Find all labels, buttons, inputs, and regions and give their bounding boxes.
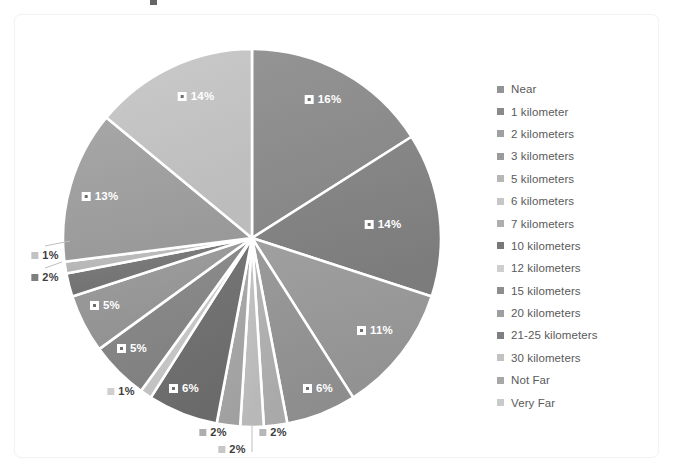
data-label-value: 2% (270, 426, 286, 438)
data-label-marker-icon (259, 429, 266, 436)
pie-data-label: 6% (303, 382, 333, 394)
pie-data-label: 1% (31, 249, 58, 261)
legend-item[interactable]: Not Far (497, 369, 662, 391)
legend-item-label: 6 kilometers (511, 195, 574, 207)
pie-data-label: 1% (107, 385, 134, 397)
legend-item-label: 7 kilometers (511, 218, 574, 230)
pie-data-label: 16% (305, 93, 342, 105)
chart-legend: Near1 kilometer2 kilometers3 kilometers5… (497, 78, 662, 414)
legend-item[interactable]: Very Far (497, 391, 662, 413)
legend-swatch-icon (497, 399, 504, 406)
legend-item[interactable]: 12 kilometers (497, 257, 662, 279)
legend-item-label: Not Far (511, 374, 550, 386)
legend-item[interactable]: 20 kilometers (497, 302, 662, 324)
legend-swatch-icon (497, 354, 504, 361)
legend-item-label: 10 kilometers (511, 240, 581, 252)
pie-data-label: 2% (218, 443, 245, 455)
data-label-value: 2% (210, 426, 226, 438)
legend-item[interactable]: 15 kilometers (497, 280, 662, 302)
legend-item[interactable]: 2 kilometers (497, 123, 662, 145)
data-label-value: 5% (130, 342, 147, 354)
data-label-marker-icon (82, 192, 91, 201)
data-label-marker-icon (90, 301, 99, 310)
legend-item-label: 5 kilometers (511, 173, 574, 185)
legend-swatch-icon (497, 130, 504, 137)
legend-item-label: 12 kilometers (511, 262, 581, 274)
data-label-value: 2% (42, 271, 58, 283)
data-label-value: 6% (182, 382, 199, 394)
legend-item[interactable]: 30 kilometers (497, 347, 662, 369)
pie-data-label: 5% (90, 299, 120, 311)
legend-swatch-icon (497, 86, 504, 93)
data-label-marker-icon (218, 446, 225, 453)
legend-item-label: 3 kilometers (511, 150, 574, 162)
data-label-marker-icon (365, 220, 374, 229)
legend-swatch-icon (497, 242, 504, 249)
pie-data-label: 2% (31, 271, 58, 283)
label-leader-line (45, 262, 62, 268)
legend-item-label: Near (511, 83, 536, 95)
pie-data-label: 2% (199, 426, 226, 438)
pie-chart: 16%14%11%6%2%2%2%6%1%5%5%2%1%13%14% (0, 0, 480, 472)
pie-data-label: 13% (82, 190, 119, 202)
legend-item[interactable]: 6 kilometers (497, 190, 662, 212)
data-label-marker-icon (305, 95, 314, 104)
pie-data-label: 5% (117, 342, 147, 354)
data-label-marker-icon (303, 384, 312, 393)
data-label-marker-icon (31, 274, 38, 281)
legend-swatch-icon (497, 175, 504, 182)
pie-data-label: 14% (365, 218, 402, 230)
data-label-value: 2% (229, 443, 245, 455)
legend-swatch-icon (497, 377, 504, 384)
data-label-marker-icon (178, 92, 187, 101)
legend-item[interactable]: 1 kilometer (497, 100, 662, 122)
pie-svg (0, 0, 480, 472)
legend-item[interactable]: 3 kilometers (497, 145, 662, 167)
data-label-marker-icon (357, 326, 366, 335)
pie-data-label: 14% (178, 90, 215, 102)
data-label-marker-icon (117, 344, 126, 353)
legend-item[interactable]: Near (497, 78, 662, 100)
legend-item-label: 21-25 kilometers (511, 329, 598, 341)
legend-item[interactable]: 21-25 kilometers (497, 324, 662, 346)
pie-data-label: 2% (259, 426, 286, 438)
legend-swatch-icon (497, 198, 504, 205)
legend-swatch-icon (497, 265, 504, 272)
data-label-marker-icon (169, 384, 178, 393)
legend-item-label: 2 kilometers (511, 128, 574, 140)
data-label-marker-icon (31, 252, 38, 259)
data-label-value: 1% (42, 249, 58, 261)
pie-data-label: 11% (357, 324, 393, 336)
legend-item-label: 1 kilometer (511, 106, 568, 118)
data-label-value: 16% (318, 93, 342, 105)
data-label-value: 14% (191, 90, 215, 102)
legend-item[interactable]: 5 kilometers (497, 168, 662, 190)
legend-swatch-icon (497, 332, 504, 339)
pie-data-label: 6% (169, 382, 199, 394)
legend-swatch-icon (497, 108, 504, 115)
data-label-value: 5% (103, 299, 120, 311)
legend-item[interactable]: 10 kilometers (497, 235, 662, 257)
data-label-value: 14% (378, 218, 402, 230)
legend-item-label: 15 kilometers (511, 285, 581, 297)
data-label-value: 1% (118, 385, 134, 397)
legend-item-label: Very Far (511, 397, 555, 409)
legend-item[interactable]: 7 kilometers (497, 212, 662, 234)
legend-swatch-icon (497, 153, 504, 160)
data-label-marker-icon (107, 388, 114, 395)
legend-item-label: 20 kilometers (511, 307, 581, 319)
legend-swatch-icon (497, 310, 504, 317)
data-label-value: 11% (370, 324, 393, 336)
data-label-marker-icon (199, 429, 206, 436)
legend-swatch-icon (497, 287, 504, 294)
legend-swatch-icon (497, 220, 504, 227)
data-label-value: 6% (316, 382, 333, 394)
legend-item-label: 30 kilometers (511, 352, 581, 364)
data-label-value: 13% (95, 190, 119, 202)
